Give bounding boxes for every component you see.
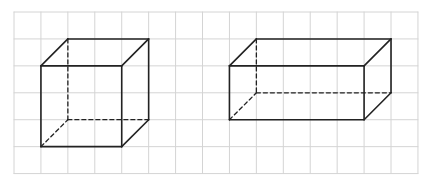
visible-edge	[364, 93, 391, 120]
grid-diagram	[0, 0, 428, 181]
visible-edge	[122, 120, 149, 147]
hidden-edge	[41, 120, 68, 147]
visible-edge	[122, 39, 149, 66]
diagram-canvas	[0, 0, 428, 181]
visible-edge	[41, 39, 68, 66]
visible-edge	[364, 39, 391, 66]
hidden-edge	[229, 93, 256, 120]
visible-edge	[229, 39, 256, 66]
